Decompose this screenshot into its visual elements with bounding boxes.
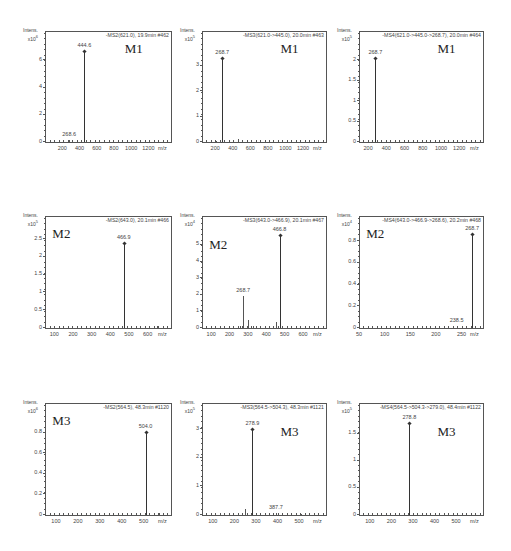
y-minor-tick — [44, 136, 46, 137]
x-minor-tick — [50, 140, 51, 142]
y-minor-tick — [44, 125, 46, 126]
y-minor-tick — [44, 273, 46, 274]
y-minor-tick — [44, 65, 46, 66]
y-minor-tick — [201, 114, 203, 115]
peak-mz-label: 466.9 — [117, 234, 131, 240]
y-tick-label: 6 — [28, 56, 42, 62]
y-minor-tick — [358, 294, 360, 295]
x-minor-tick — [480, 326, 481, 328]
x-minor-tick — [309, 513, 310, 515]
spectrum-peak — [253, 326, 254, 328]
x-minor-tick — [224, 513, 225, 515]
x-minor-tick — [381, 326, 382, 328]
x-minor-tick — [211, 326, 212, 328]
y-minor-tick — [201, 438, 203, 439]
y-minor-tick — [201, 267, 203, 268]
y-minor-tick — [44, 283, 46, 284]
y-minor-tick — [44, 109, 46, 110]
y-minor-tick — [201, 76, 203, 77]
compound-label: M3 — [281, 424, 299, 440]
x-tick-label: 1200 — [297, 145, 309, 151]
y-minor-tick — [358, 109, 360, 110]
x-minor-tick — [118, 513, 119, 515]
x-minor-tick — [269, 140, 270, 142]
x-minor-tick — [229, 140, 230, 142]
x-minor-tick — [377, 326, 378, 328]
x-minor-tick — [86, 513, 87, 515]
x-minor-tick — [131, 513, 132, 515]
x-tick-label: 600 — [246, 145, 255, 151]
x-minor-tick — [278, 140, 279, 142]
y-minor-tick — [44, 289, 46, 290]
x-minor-tick — [323, 140, 324, 142]
precursor-marker-icon — [122, 241, 126, 245]
plot-area: -MS2(621.0), 19.9min #462M1268.6444.6 — [45, 31, 172, 143]
y-scale-exponent: 5 — [350, 34, 352, 39]
y-tick-label: 4 — [28, 83, 42, 89]
y-minor-tick — [201, 262, 203, 263]
y-tick-label: 4 — [185, 257, 199, 263]
x-tick-label: 500 — [280, 331, 289, 337]
x-minor-tick — [300, 326, 301, 328]
x-minor-tick — [163, 326, 164, 328]
spectrum-peak — [248, 320, 249, 328]
y-minor-tick — [358, 256, 360, 257]
x-minor-tick — [163, 513, 164, 515]
y-minor-tick — [44, 87, 46, 88]
y-minor-tick — [201, 256, 203, 257]
x-tick-label: 200 — [211, 145, 220, 151]
y-minor-tick — [44, 449, 46, 450]
x-minor-tick — [408, 513, 409, 515]
y-minor-tick — [358, 305, 360, 306]
x-minor-tick — [471, 513, 472, 515]
y-minor-tick — [201, 60, 203, 61]
x-minor-tick — [453, 513, 454, 515]
x-minor-tick — [444, 326, 445, 328]
y-axis-scale: x104 — [180, 219, 195, 227]
y-minor-tick — [44, 405, 46, 406]
x-tick-label: 400 — [117, 518, 126, 524]
x-minor-tick — [247, 513, 248, 515]
x-minor-tick — [50, 513, 51, 515]
y-minor-tick — [358, 416, 360, 417]
x-minor-tick — [99, 140, 100, 142]
x-minor-tick — [63, 513, 64, 515]
y-scale-exponent: 5 — [193, 34, 195, 39]
x-minor-tick — [136, 326, 137, 328]
scan-header: -MS2(621.0), 19.9min #462 — [106, 32, 169, 38]
x-minor-tick — [439, 140, 440, 142]
x-minor-tick — [109, 140, 110, 142]
x-minor-tick — [77, 513, 78, 515]
x-tick-label: 200 — [68, 331, 77, 337]
y-minor-tick — [44, 92, 46, 93]
x-minor-tick — [215, 513, 216, 515]
y-scale-base: x10 — [28, 35, 36, 41]
compound-label: M3 — [52, 413, 70, 429]
x-tick-label: 300 — [251, 518, 260, 524]
x-minor-tick — [113, 513, 114, 515]
y-tick-label: 2.5 — [28, 235, 42, 241]
x-minor-tick — [430, 326, 431, 328]
x-minor-tick — [211, 513, 212, 515]
y-minor-tick — [44, 245, 46, 246]
y-minor-tick — [201, 509, 203, 510]
plot-area: -MS3(564.5->504.3), 48.3min #1121M3278.9… — [202, 403, 327, 516]
y-minor-tick — [358, 289, 360, 290]
x-axis-unit: m/z — [313, 518, 322, 524]
x-minor-tick — [273, 513, 274, 515]
y-axis-scale: x105 — [23, 219, 38, 227]
x-minor-tick — [287, 513, 288, 515]
x-axis-unit: m/z — [158, 518, 167, 524]
y-minor-tick — [358, 44, 360, 45]
y-minor-tick — [201, 119, 203, 120]
plot-area: -MS4(643.0->466.9->268.6), 20.2min #468M… — [359, 216, 484, 329]
y-tick-label: 0 — [185, 324, 199, 330]
y-minor-tick — [44, 311, 46, 312]
y-tick-label: 0 — [28, 511, 42, 517]
y-scale-exponent: 6 — [36, 406, 38, 411]
x-minor-tick — [318, 513, 319, 515]
y-minor-tick — [201, 322, 203, 323]
x-minor-tick — [220, 513, 221, 515]
x-minor-tick — [167, 326, 168, 328]
x-tick-label: 1200 — [453, 145, 465, 151]
